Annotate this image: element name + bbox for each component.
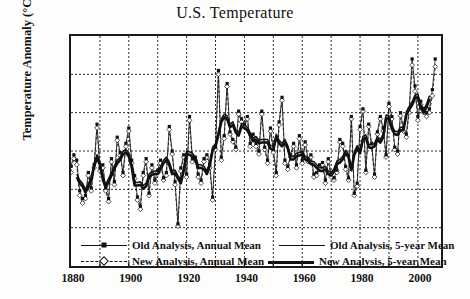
x-tick-label: 1960 xyxy=(293,272,316,284)
chart-title: U.S. Temperature xyxy=(0,4,470,22)
legend-swatch-new-annual xyxy=(81,256,127,266)
x-tick-label: 1940 xyxy=(235,272,258,284)
legend-item-old-annual[interactable]: Old Analysis, Annual Mean xyxy=(81,239,261,251)
plot-area: Old Analysis, Annual Mean Old Analysis, … xyxy=(69,34,443,268)
legend-label-old-5yr: Old Analysis, 5-year Mean xyxy=(330,239,454,251)
legend-label-new-annual: New Analysis, Annual Mean xyxy=(132,255,264,267)
legend-row-annual: Old Analysis, Annual Mean Old Analysis, … xyxy=(81,238,437,252)
legend-row-5year: New Analysis, Annual Mean New Analysis, … xyxy=(81,254,437,268)
legend-swatch-old-5yr xyxy=(279,240,325,250)
legend-item-new-5yr[interactable]: New Analysis, 5-year Mean xyxy=(268,255,447,267)
x-tick-label: 2000 xyxy=(408,272,431,284)
legend-swatch-old-annual xyxy=(81,240,127,250)
legend-label-old-annual: Old Analysis, Annual Mean xyxy=(132,239,261,251)
x-tick-label: 1920 xyxy=(177,272,200,284)
figure: U.S. Temperature Temperature Anomaly (°C… xyxy=(0,0,470,299)
x-tick-label: 1980 xyxy=(351,272,374,284)
legend-item-old-5yr[interactable]: Old Analysis, 5-year Mean xyxy=(279,239,454,251)
x-tick-label: 1900 xyxy=(119,272,142,284)
y-axis-label: Temperature Anomaly (°C) xyxy=(20,0,35,183)
x-tick-label: 1880 xyxy=(62,272,85,284)
legend-swatch-new-5yr xyxy=(268,256,314,266)
data-series-layer xyxy=(71,36,441,266)
chart-legend: Old Analysis, Annual Mean Old Analysis, … xyxy=(81,238,437,268)
legend-item-new-annual[interactable]: New Analysis, Annual Mean xyxy=(81,255,264,267)
legend-label-new-5yr: New Analysis, 5-year Mean xyxy=(319,255,447,267)
